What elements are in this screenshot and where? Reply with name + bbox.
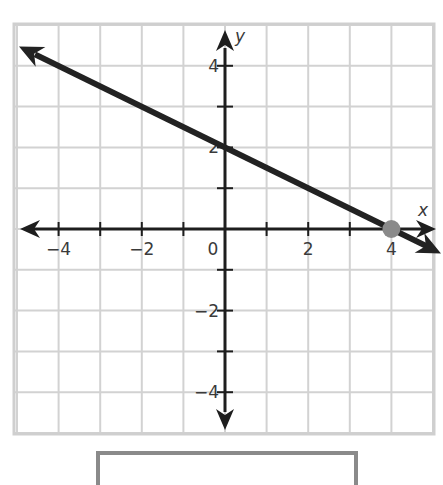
y-tick-label: −4 — [194, 382, 219, 402]
x-axis-label: x — [417, 200, 429, 220]
y-tick-label: −2 — [194, 301, 219, 321]
x-tick-label: −4 — [46, 239, 71, 259]
data-line — [19, 46, 441, 253]
data-points — [382, 220, 400, 238]
x-tick-label: −2 — [129, 239, 154, 259]
axes — [20, 30, 436, 430]
x-tick-label: 2 — [303, 239, 314, 259]
x-tick-label: 0 — [208, 239, 219, 259]
y-axis-label: y — [234, 26, 246, 46]
line-segment — [35, 54, 427, 246]
answer-box[interactable] — [96, 451, 358, 485]
y-tick-label: 4 — [208, 56, 219, 76]
x-tick-label: 4 — [386, 239, 397, 259]
x-intercept-point — [382, 220, 400, 238]
